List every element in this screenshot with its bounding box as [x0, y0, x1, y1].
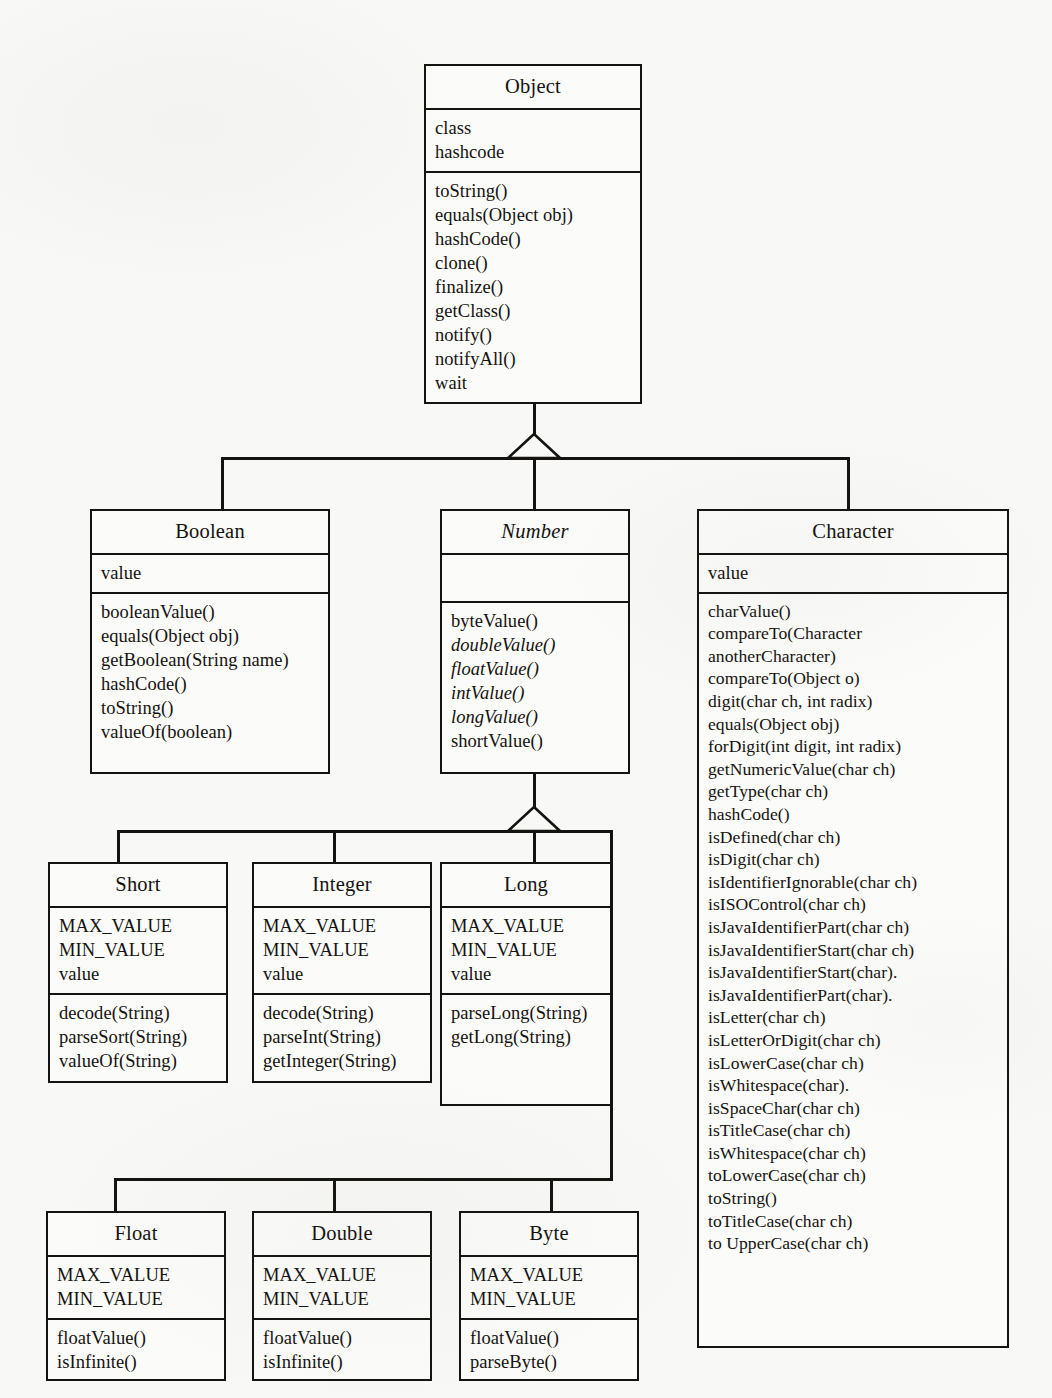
method: isLetterOrDigit(char ch): [708, 1029, 998, 1052]
attributes-compartment-short: MAX_VALUE MIN_VALUE value: [50, 906, 226, 993]
method: longValue(): [451, 705, 619, 729]
attributes-compartment-byte: MAX_VALUE MIN_VALUE: [461, 1255, 637, 1318]
method: floatValue(): [470, 1326, 628, 1350]
method: compareTo(Object o): [708, 667, 998, 690]
attribute: hashcode: [435, 140, 631, 164]
method: toLowerCase(char ch): [708, 1164, 998, 1187]
method: isSpaceChar(char ch): [708, 1097, 998, 1120]
methods-compartment-character: charValue() compareTo(Character anotherC…: [699, 592, 1007, 1262]
method: intValue(): [451, 681, 619, 705]
methods-compartment-float: floatValue() isInfinite(): [48, 1318, 224, 1381]
method: isJavaIdentifierPart(char ch): [708, 916, 998, 939]
method: toString(): [101, 696, 319, 720]
methods-compartment-byte: floatValue() parseByte(): [461, 1318, 637, 1381]
connector-drop-byte: [550, 1178, 553, 1211]
method: getBoolean(String name): [101, 648, 319, 672]
attributes-compartment-number: [442, 553, 628, 601]
method: floatValue(): [263, 1326, 421, 1350]
class-box-object[interactable]: Object class hashcode toString() equals(…: [424, 64, 642, 404]
method: to UpperCase(char ch): [708, 1232, 998, 1255]
class-box-double[interactable]: Double MAX_VALUE MIN_VALUE floatValue() …: [252, 1211, 432, 1381]
method: clone(): [435, 251, 631, 275]
method: doubleValue(): [451, 633, 619, 657]
attribute: MIN_VALUE: [470, 1287, 628, 1311]
method: decode(String): [59, 1001, 217, 1025]
attributes-compartment-long: MAX_VALUE MIN_VALUE value: [442, 906, 610, 993]
method: digit(char ch, int radix): [708, 690, 998, 713]
attribute: value: [59, 962, 217, 986]
attributes-compartment-double: MAX_VALUE MIN_VALUE: [254, 1255, 430, 1318]
method: getNumericValue(char ch): [708, 758, 998, 781]
class-box-short[interactable]: Short MAX_VALUE MIN_VALUE value decode(S…: [48, 862, 228, 1083]
method: isTitleCase(char ch): [708, 1119, 998, 1142]
class-box-number[interactable]: Number byteValue() doubleValue() floatVa…: [440, 509, 630, 774]
attribute: MAX_VALUE: [263, 914, 421, 938]
connector-drop-long: [533, 830, 536, 863]
method: isISOControl(char ch): [708, 893, 998, 916]
method: isInfinite(): [263, 1350, 421, 1374]
method: notify(): [435, 323, 631, 347]
generalization-triangle-number: [506, 805, 562, 833]
method: booleanValue(): [101, 600, 319, 624]
method: equals(Object obj): [101, 624, 319, 648]
method: forDigit(int digit, int radix): [708, 735, 998, 758]
method: isJavaIdentifierPart(char).: [708, 984, 998, 1007]
method: toString(): [708, 1187, 998, 1210]
attribute: MAX_VALUE: [57, 1263, 215, 1287]
method: getLong(String): [451, 1025, 601, 1049]
attribute: value: [451, 962, 601, 986]
method: charValue(): [708, 600, 998, 623]
method: isJavaIdentifierStart(char).: [708, 961, 998, 984]
attributes-compartment-character: value: [699, 553, 1007, 592]
attribute: value: [101, 561, 319, 585]
method: isWhitespace(char ch): [708, 1142, 998, 1165]
method: anotherCharacter): [708, 645, 998, 668]
methods-compartment-boolean: booleanValue() equals(Object obj) getBoo…: [92, 592, 328, 751]
method: equals(Object obj): [708, 713, 998, 736]
class-box-byte[interactable]: Byte MAX_VALUE MIN_VALUE floatValue() pa…: [459, 1211, 639, 1381]
class-box-boolean[interactable]: Boolean value booleanValue() equals(Obje…: [90, 509, 330, 774]
method: getType(char ch): [708, 780, 998, 803]
class-box-long[interactable]: Long MAX_VALUE MIN_VALUE value parseLong…: [440, 862, 612, 1106]
attributes-compartment-float: MAX_VALUE MIN_VALUE: [48, 1255, 224, 1318]
method: finalize(): [435, 275, 631, 299]
attribute: MIN_VALUE: [263, 938, 421, 962]
attribute: value: [263, 962, 421, 986]
methods-compartment-object: toString() equals(Object obj) hashCode()…: [426, 171, 640, 402]
method: valueOf(String): [59, 1049, 217, 1073]
method: floatValue(): [451, 657, 619, 681]
methods-compartment-short: decode(String) parseSort(String) valueOf…: [50, 993, 226, 1080]
connector-drop-double: [333, 1178, 336, 1211]
connector-number-stem: [533, 773, 536, 809]
method: toString(): [435, 179, 631, 203]
methods-compartment-number: byteValue() doubleValue() floatValue() i…: [442, 601, 628, 760]
connector-drop-float: [114, 1178, 117, 1211]
methods-compartment-double: floatValue() isInfinite(): [254, 1318, 430, 1381]
method: byteValue(): [451, 609, 619, 633]
method: isIdentifierIgnorable(char ch): [708, 871, 998, 894]
attributes-compartment-object: class hashcode: [426, 108, 640, 171]
class-name-integer: Integer: [254, 864, 430, 906]
method: equals(Object obj): [435, 203, 631, 227]
attribute: MIN_VALUE: [451, 938, 601, 962]
method: isDefined(char ch): [708, 826, 998, 849]
method: hashCode(): [101, 672, 319, 696]
method: parseByte(): [470, 1350, 628, 1374]
method: isLetter(char ch): [708, 1006, 998, 1029]
method: toTitleCase(char ch): [708, 1210, 998, 1233]
attribute: MAX_VALUE: [59, 914, 217, 938]
class-box-float[interactable]: Float MAX_VALUE MIN_VALUE floatValue() i…: [46, 1211, 226, 1381]
attributes-compartment-integer: MAX_VALUE MIN_VALUE value: [254, 906, 430, 993]
class-box-integer[interactable]: Integer MAX_VALUE MIN_VALUE value decode…: [252, 862, 432, 1083]
method: getClass(): [435, 299, 631, 323]
method: floatValue(): [57, 1326, 215, 1350]
attribute: MAX_VALUE: [451, 914, 601, 938]
method: hashCode(): [435, 227, 631, 251]
methods-compartment-long: parseLong(String) getLong(String): [442, 993, 610, 1056]
method: isJavaIdentifierStart(char ch): [708, 939, 998, 962]
connector-drop-integer: [333, 830, 336, 863]
class-box-character[interactable]: Character value charValue() compareTo(Ch…: [697, 509, 1009, 1348]
method: isInfinite(): [57, 1350, 215, 1374]
uml-class-diagram: Object class hashcode toString() equals(…: [0, 0, 1052, 1398]
method: shortValue(): [451, 729, 619, 753]
